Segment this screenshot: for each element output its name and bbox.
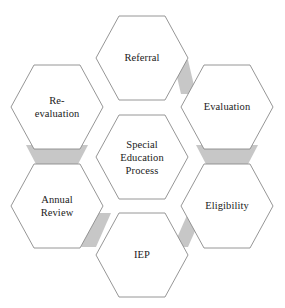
hexagon-eligibility[interactable] — [181, 164, 273, 248]
hexagon-special-education-process[interactable] — [96, 115, 188, 199]
hexagon-cycle-graphic — [0, 0, 285, 308]
hexagon-evaluation[interactable] — [181, 65, 273, 149]
hexagon-iep[interactable] — [96, 213, 188, 297]
hexagon-referral[interactable] — [96, 16, 188, 100]
special-education-process-diagram: Referral Evaluation Eligibility IEP Annu… — [0, 0, 285, 308]
hexagon-re-evaluation[interactable] — [11, 65, 103, 149]
